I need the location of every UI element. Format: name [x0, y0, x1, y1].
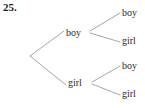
edge-boy-to-girl [90, 33, 120, 42]
edge-root-to-girl [30, 56, 66, 85]
node-level2-boy-2: boy [122, 60, 137, 71]
node-level1-girl: girl [68, 77, 82, 88]
edge-boy-to-boy [90, 13, 120, 31]
edge-girl-to-boy [92, 66, 120, 82]
edge-root-to-boy [30, 31, 64, 56]
node-level2-boy-1: boy [122, 7, 137, 18]
edge-girl-to-girl [92, 84, 120, 95]
node-level2-girl-2: girl [122, 88, 136, 99]
node-level2-girl-1: girl [122, 35, 136, 46]
diagram-page: 25. boy girl boy girl boy girl [0, 0, 145, 108]
node-level1-boy: boy [66, 27, 81, 38]
